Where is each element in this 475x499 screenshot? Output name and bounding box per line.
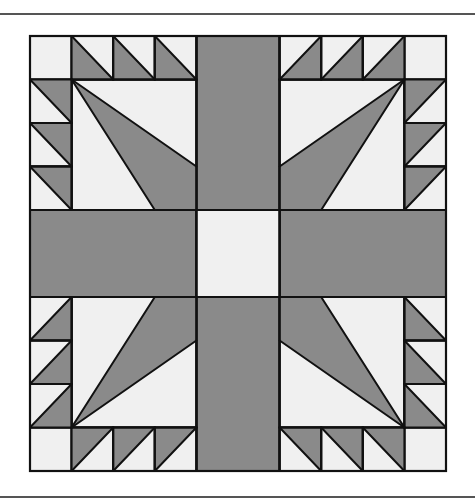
sash-left [30,210,196,297]
sash-right [280,210,446,297]
center-square [196,210,279,297]
quilt-fills [30,36,446,471]
corner-tl [30,36,72,80]
quilt-block-diagram [0,0,475,499]
sash-bottom [196,297,279,471]
corner-tr [404,36,446,80]
corner-br [404,428,446,472]
corner-bl [30,428,72,472]
sash-top [196,36,279,210]
